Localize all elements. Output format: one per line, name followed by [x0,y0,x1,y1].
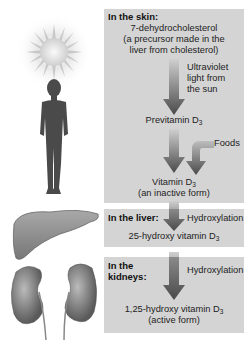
previtamin-label: Previtamin D3 [104,115,244,126]
foods-arrow-icon [186,141,214,175]
kidney-product: 1,25-hydroxy vitamin D3 [104,304,244,315]
uv-line2: light from [187,73,225,84]
down-arrow-icon [163,129,185,173]
skin-box: In the skin: 7-dehydrocholesterol (a pre… [104,9,244,203]
liver-header: In the liver: [108,213,159,224]
kidney-process: Hydroxylation [187,265,243,276]
kidney-header-line1: In the [108,261,133,272]
uv-line3: the sun [187,84,218,95]
down-arrow-icon [163,59,185,115]
liver-icon [10,206,100,262]
uv-line1: Ultraviolet [187,62,228,73]
vitamin-d3-label: Vitamin D3 [104,177,244,188]
human-figure-icon [34,78,74,196]
precursor-line3: liver from cholesterol) [104,45,244,56]
liver-product: 25-hydroxy vitamin D3 [104,231,244,242]
precursor-line1: 7-dehydrocholesterol [104,23,244,34]
down-arrow-icon [163,209,185,231]
vitamin-note: (an inactive form) [104,188,244,199]
down-arrow-icon [163,257,185,300]
liver-process: Hydroxylation [187,213,243,224]
precursor-line2: (a precursor made in the [104,34,244,45]
kidneys-icon [8,262,100,342]
kidney-product-note: (active form) [104,315,244,326]
kidney-header-line2: kidneys: [108,272,147,283]
foods-label: Foods [214,138,240,149]
skin-header: In the skin: [108,12,158,23]
